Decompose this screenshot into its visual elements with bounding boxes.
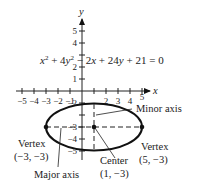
x-tick-label: −3 bbox=[41, 96, 51, 106]
equation: x2 + 4y2 − 2x + 24y + 21 = 0 bbox=[39, 54, 164, 66]
vertex-right-coords: (5, −3) bbox=[139, 154, 168, 166]
center-leader bbox=[95, 128, 115, 158]
vertex-right-point bbox=[140, 125, 145, 130]
minor-axis-leader bbox=[96, 109, 132, 115]
y-tick-label: 4 bbox=[73, 38, 78, 48]
x-tick-label: 5 bbox=[140, 92, 145, 102]
minor-axis-label: Minor axis bbox=[136, 103, 182, 114]
vertex-left-point bbox=[44, 125, 49, 130]
y-tick-label: −4 bbox=[67, 134, 77, 144]
x-tick-label: −5 bbox=[17, 96, 27, 106]
major-axis-label: Major axis bbox=[34, 169, 79, 180]
x-tick-label: 4 bbox=[128, 96, 133, 106]
x-tick-label: −2 bbox=[53, 96, 63, 106]
major-axis-leader bbox=[58, 128, 61, 167]
x-tick-label: −4 bbox=[29, 96, 39, 106]
ellipse-diagram: −5 −4 −3 −2 −1 2 3 4 5 x 5 4 2 1 −2 −3 −… bbox=[0, 0, 202, 190]
y-axis-label: y bbox=[78, 6, 84, 17]
y-tick-label: 5 bbox=[73, 26, 78, 36]
y-axis: 5 4 2 1 −2 −3 −4 −5 y bbox=[67, 6, 85, 160]
vertex-left-label: Vertex bbox=[18, 138, 46, 149]
center-coords: (1, −3) bbox=[100, 168, 129, 180]
center-label: Center bbox=[100, 155, 128, 166]
vertex-right-label: Vertex bbox=[141, 141, 169, 152]
x-tick-label: 3 bbox=[116, 96, 121, 106]
y-tick-label: 1 bbox=[73, 74, 78, 84]
x-axis-label: x bbox=[152, 85, 158, 96]
vertex-left-coords: (−3, −3) bbox=[14, 151, 49, 163]
